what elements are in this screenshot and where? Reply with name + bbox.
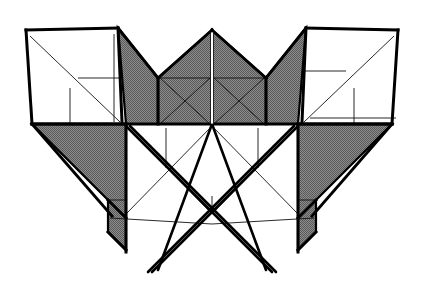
technical-drawing [0,0,427,286]
right-panel-top-edge [306,28,398,30]
figure-canvas: Symmetric frame structure line drawing F… [0,0,427,286]
left-panel-top-edge [26,28,118,30]
center-white-stripe [211,32,214,124]
